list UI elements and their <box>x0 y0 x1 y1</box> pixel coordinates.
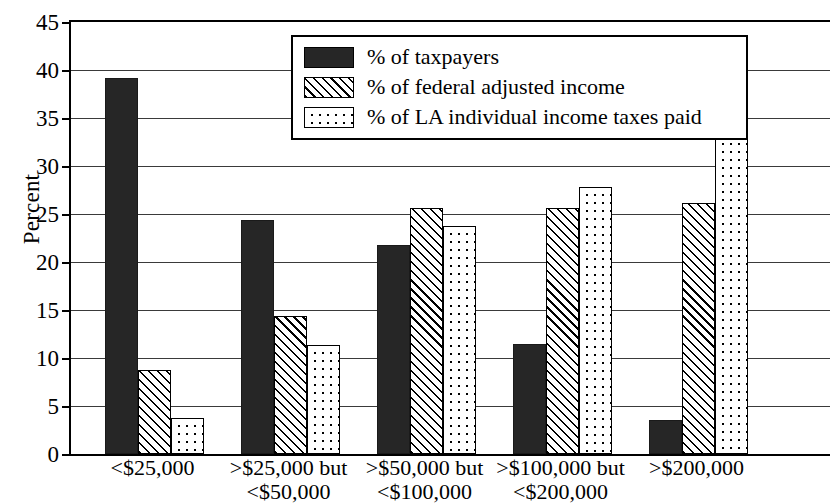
y-axis-tick-label: 5 <box>48 395 60 418</box>
legend-item: % of LA individual income taxes paid <box>304 102 738 132</box>
x-axis-label-line1: >$100,000 but <box>496 455 625 480</box>
tick-mark <box>62 22 71 24</box>
x-axis-label-line1: <$25,000 <box>111 455 195 480</box>
legend-swatch-solid-icon <box>304 47 354 68</box>
bar <box>546 208 579 454</box>
tick-mark <box>62 310 71 312</box>
x-axis-label-line1: >$50,000 but <box>366 455 484 480</box>
bar <box>579 187 612 454</box>
bar <box>443 226 476 454</box>
x-axis-label: >$200,000 <box>607 456 787 480</box>
y-axis-tick-label: 15 <box>36 299 59 322</box>
x-axis-label-line1: >$25,000 but <box>230 455 348 480</box>
tick-mark <box>62 358 71 360</box>
tick-mark <box>62 118 71 120</box>
y-axis-tick-label: 45 <box>36 11 59 34</box>
legend-item: % of federal adjusted income <box>304 72 738 102</box>
bar <box>715 128 748 454</box>
y-axis-tick-label: 10 <box>36 347 59 370</box>
legend-label: % of federal adjusted income <box>367 76 625 98</box>
bar <box>682 203 715 454</box>
legend-label: % of taxpayers <box>367 46 499 68</box>
y-axis-tick-label: 0 <box>48 443 60 466</box>
bar <box>241 220 274 454</box>
bar <box>307 345 340 454</box>
tick-mark <box>62 214 71 216</box>
tick-mark <box>62 406 71 408</box>
legend-item: % of taxpayers <box>304 42 738 72</box>
y-axis-tick-label: 35 <box>36 107 59 130</box>
x-axis-label-line2: <$200,000 <box>471 480 651 504</box>
x-axis-label-line1: >$200,000 <box>649 455 744 480</box>
legend-label: % of LA individual income taxes paid <box>367 106 702 128</box>
bar <box>274 316 307 454</box>
bar <box>513 344 546 454</box>
y-axis-tick-label: 25 <box>36 203 59 226</box>
y-axis-tick-label: 20 <box>36 251 59 274</box>
legend-swatch-dots-icon <box>304 107 354 128</box>
tick-mark <box>62 166 71 168</box>
y-axis-tick-label: 40 <box>36 59 59 82</box>
bar <box>138 370 171 454</box>
bar <box>105 78 138 454</box>
tick-mark <box>62 70 71 72</box>
y-axis-tick-label: 30 <box>36 155 59 178</box>
legend-swatch-hatch-icon <box>304 77 354 98</box>
bar <box>377 245 410 454</box>
bar <box>649 420 682 454</box>
bar <box>410 208 443 454</box>
bar <box>171 418 204 454</box>
legend: % of taxpayers % of federal adjusted inc… <box>291 35 748 140</box>
tick-mark <box>62 262 71 264</box>
